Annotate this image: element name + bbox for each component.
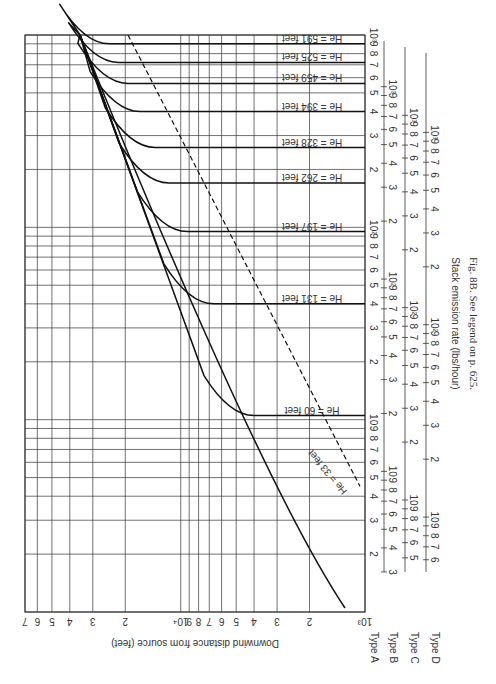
x-tick-label: 7 [429, 352, 440, 358]
x-tick-label: 8 [387, 103, 398, 109]
x-tick-label: 2 [387, 218, 398, 224]
x-tick-label: 3 [368, 325, 379, 331]
x-tick-label: 4 [368, 493, 379, 499]
x-tick-label: 2 [368, 359, 379, 365]
x-tick-label: 7 [368, 254, 379, 260]
curve-label: He = 394 feet [282, 101, 343, 112]
x-tick-label: 9 [387, 477, 398, 483]
x-tick-label: 3 [368, 517, 379, 523]
y-tick-label: 3 [90, 616, 96, 627]
x-tick-label: 7 [368, 62, 379, 68]
x-tick-label: 7 [408, 527, 419, 533]
x-tick-label: 6 [408, 155, 419, 161]
x-tick-label: 10 [387, 466, 398, 478]
y-tick-label: 4 [251, 616, 257, 627]
plume-height-curve [80, 35, 345, 608]
x-tick-label: 8 [408, 516, 419, 522]
x-tick-label: 6 [368, 267, 379, 273]
x-tick-label: 3 [387, 569, 398, 575]
y-tick-label: 6 [34, 616, 40, 627]
x-tick-label: 3 [408, 405, 419, 411]
y-tick-label: 3 [274, 616, 280, 627]
x-tick-label: 8 [368, 436, 379, 442]
x-tick-label: 6 [429, 557, 440, 563]
x-tick-label: 8 [368, 51, 379, 57]
x-tick-label: 4 [429, 206, 440, 212]
x-tick-label: 4 [368, 301, 379, 307]
x-tick-label: 5 [368, 475, 379, 481]
curve-label: He = 328 feet [282, 137, 343, 148]
x-tick-label: 2 [368, 167, 379, 173]
x-tick-label: 2 [429, 456, 440, 462]
y-tick-label: 6 [218, 616, 224, 627]
curve-label: He = 525 feet [282, 51, 343, 62]
x-tick-label: 6 [408, 540, 419, 546]
x-tick-label: 7 [387, 498, 398, 504]
x-tick-label: 8 [387, 487, 398, 493]
x-tick-label: 4 [387, 545, 398, 551]
x-tick-label: 4 [408, 381, 419, 387]
x-axis-title: Stack emission rate (lbs/hour) [450, 257, 461, 389]
curve-label: He = 33 feet [305, 448, 349, 497]
x-tick-label: 4 [429, 398, 440, 404]
x-tick-label: 9 [408, 506, 419, 512]
x-tick-label: 8 [368, 243, 379, 249]
x-tick-label: 10³ [429, 125, 440, 140]
x-tick-label: 5 [387, 142, 398, 148]
rotated-log-chart: 10³2345678910⁴234567Downwind distance fr… [0, 0, 496, 684]
x-tick-label: 10² [368, 220, 379, 235]
x-tick-label: 7 [387, 306, 398, 312]
y-tick-label: 2 [122, 616, 128, 627]
x-tick-label: 8 [408, 131, 419, 137]
x-tick-label: 6 [429, 365, 440, 371]
x-tick-label: 4 [387, 160, 398, 166]
x-tick-label: 3 [387, 184, 398, 190]
plume-curves [59, 4, 365, 608]
x-tick-label: 4 [408, 189, 419, 195]
x-tick-label: 5 [368, 90, 379, 96]
plot-grid [25, 35, 365, 612]
x-tick-label: 10³ [387, 79, 398, 94]
x-tick-label: 5 [408, 555, 419, 561]
curve-label: He = 591 feet [282, 33, 343, 44]
x-tick-label: 3 [368, 133, 379, 139]
x-tick-label: 3 [408, 213, 419, 219]
x-tick-label: 6 [429, 172, 440, 178]
x-tick-label: 6 [368, 75, 379, 81]
y-tick-label: 8 [195, 616, 201, 627]
x-tick-label: 4 [368, 109, 379, 115]
x-tick-label: 5 [429, 188, 440, 194]
x-tick-label: 7 [408, 335, 419, 341]
curve-label: He = 131 feet [282, 293, 343, 304]
x-tick-label: 5 [408, 170, 419, 176]
curve-label: He = 197 feet [282, 221, 343, 232]
curve-label: He = 262 feet [282, 172, 343, 183]
x-tick-label: 5 [368, 282, 379, 288]
x-tick-label: 5 [408, 363, 419, 369]
x-tick-label: 2 [387, 411, 398, 417]
y-tick-label: 5 [49, 616, 55, 627]
axes: 10³2345678910⁴234567Downwind distance fr… [22, 28, 440, 649]
y-tick-label: 5 [233, 616, 239, 627]
x-tick-label: 2 [429, 264, 440, 270]
x-tick-label: 5 [387, 334, 398, 340]
x-tick-label: 2 [408, 439, 419, 445]
x-tick-label: 10² [408, 300, 419, 315]
y-tick-label: 7 [206, 616, 212, 627]
y-tick-label: 7 [22, 616, 28, 627]
x-tick-label: 3 [429, 230, 440, 236]
x-tick-label: 5 [387, 526, 398, 532]
x-tick-label: 4 [387, 353, 398, 359]
x-tick-label: 7 [387, 114, 398, 120]
x-tick-label: 10 [368, 414, 379, 426]
y-tick-label: 4 [67, 616, 73, 627]
x-tick-label: 6 [387, 319, 398, 325]
x-tick-label: 6 [387, 127, 398, 133]
x-tick-label: 2 [408, 247, 419, 253]
x-tick-label: 7 [429, 544, 440, 550]
type-axis-label: Type A [369, 632, 380, 663]
type-axis-label: Type D [430, 632, 441, 664]
x-tick-label: 8 [408, 324, 419, 330]
x-tick-label: 7 [429, 159, 440, 165]
x-tick-label: 8 [429, 533, 440, 539]
